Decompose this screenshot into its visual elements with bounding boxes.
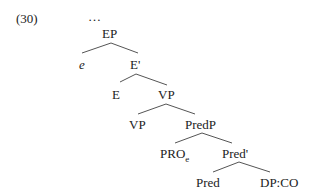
node-vp-top: VP xyxy=(158,88,175,102)
edge-predp-pro xyxy=(175,133,202,143)
node-dp-co: DP:CO xyxy=(260,176,298,189)
node-pred-bar: Pred' xyxy=(222,147,248,161)
node-pro-label: PRO xyxy=(160,146,185,161)
edge-ebar-e xyxy=(120,74,136,82)
edge-vp-vp xyxy=(138,104,166,114)
edge-ep-e xyxy=(82,43,111,53)
node-vp-low: VP xyxy=(129,118,146,132)
edge-predbar-dpco xyxy=(239,162,270,172)
edge-vp-predp xyxy=(166,104,195,114)
node-pro-e: PROe xyxy=(160,147,189,161)
example-number: (30) xyxy=(16,12,38,26)
node-pred: Pred xyxy=(196,176,220,189)
node-e-bar: E' xyxy=(130,58,140,72)
edge-predbar-pred xyxy=(213,162,239,172)
node-e: E xyxy=(112,88,120,102)
node-pro-subscript: e xyxy=(185,154,189,164)
edge-ep-ebar xyxy=(111,43,138,53)
tree-edges xyxy=(0,0,313,189)
node-predp: PredP xyxy=(185,118,216,132)
edge-ebar-vp xyxy=(136,74,167,85)
node-ep: EP xyxy=(102,27,117,41)
ellipsis: … xyxy=(88,10,101,24)
edge-predp-predbar xyxy=(202,133,232,143)
node-e-trace: e xyxy=(79,58,85,72)
